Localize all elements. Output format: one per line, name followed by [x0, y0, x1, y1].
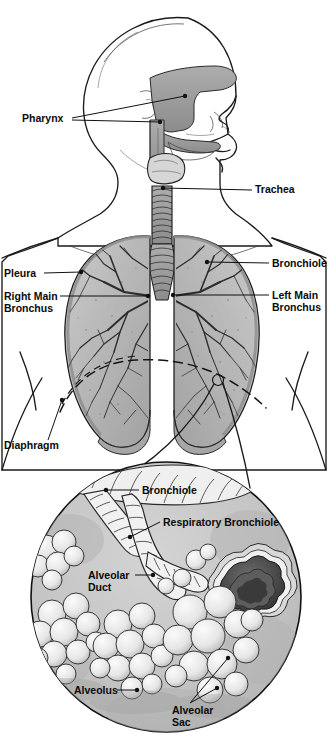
label-bronchiole-lung: Bronchiole: [272, 257, 327, 269]
label-bronchiole-inset: Bronchiole: [142, 484, 197, 496]
label-right-main-bronchus: Right Main: [4, 290, 58, 302]
callout-pleura: Pleura: [4, 267, 83, 279]
leader-dot-respiratory-bronchiole-0: [128, 535, 132, 539]
label-pleura: Pleura: [4, 267, 36, 279]
leader-dot-bronchiole-inset-0: [104, 488, 108, 492]
leader-dot-trachea-0: [161, 186, 165, 190]
label-alveolar-duct: Alveolar: [88, 569, 129, 581]
callout-trachea: Trachea: [161, 183, 295, 195]
leader-line-pharynx-0: [72, 96, 185, 118]
label-alveolar-sac-line2: Sac: [172, 716, 191, 728]
label-trachea: Trachea: [255, 183, 295, 195]
leader-line-trachea-0: [163, 188, 252, 190]
label-alveolus: Alveolus: [74, 684, 118, 696]
leader-dot-pharynx-1: [158, 120, 162, 124]
callout-respiratory-bronchiole: Respiratory Bronchiole: [128, 516, 279, 539]
label-pharynx: Pharynx: [22, 112, 64, 124]
leader-line-diaphragm-0: [48, 400, 62, 440]
label-diaphragm: Diaphragm: [4, 439, 59, 451]
leader-dot-alveolus-0: [135, 688, 139, 692]
leader-line-pharynx-1: [72, 120, 160, 122]
leader-line-bronchiole-lung-0: [207, 262, 269, 263]
callout-bronchiole-lung: Bronchiole: [205, 257, 327, 269]
leader-line-pleura-0: [44, 272, 81, 273]
callout-alveolar-duct: AlveolarDuct: [88, 569, 155, 593]
label-left-main-bronchus: Left Main: [272, 289, 318, 301]
leader-dot-pharynx-0: [183, 94, 187, 98]
leader-dot-right-main-bronchus-0: [146, 294, 150, 298]
label-left-main-bronchus-line2: Bronchus: [272, 301, 321, 313]
callout-bronchiole-inset: Bronchiole: [104, 484, 197, 496]
callout-right-main-bronchus: Right MainBronchus: [4, 290, 150, 314]
label-alveolar-sac: Alveolar: [172, 704, 213, 716]
label-respiratory-bronchiole: Respiratory Bronchiole: [163, 516, 279, 528]
leader-dot-alveolar-sac-0: [215, 686, 219, 690]
leader-dot-alveolar-sac-1: [226, 656, 230, 660]
label-right-main-bronchus-line2: Bronchus: [4, 302, 53, 314]
leader-dot-bronchiole-lung-0: [205, 260, 209, 264]
leader-line-respiratory-bronchiole-0: [130, 522, 160, 537]
label-layer: PharynxTracheaPleuraRight MainBronchusBr…: [0, 0, 328, 738]
label-alveolar-duct-line2: Duct: [88, 581, 112, 593]
leader-dot-pleura-0: [79, 270, 83, 274]
callout-left-main-bronchus: Left MainBronchus: [171, 289, 321, 313]
callout-alveolus: Alveolus: [74, 684, 139, 696]
leader-dot-left-main-bronchus-0: [171, 293, 175, 297]
leader-line-alveolar-sac-0: [190, 688, 217, 703]
callout-pharynx: Pharynx: [22, 94, 187, 124]
leader-dot-alveolar-duct-0: [151, 573, 155, 577]
leader-line-alveolar-sac-1: [190, 658, 228, 703]
diagram-canvas: PharynxTracheaPleuraRight MainBronchusBr…: [0, 0, 328, 738]
leader-dot-diaphragm-0: [60, 398, 64, 402]
callout-alveolar-sac: AlveolarSac: [172, 656, 230, 728]
callout-diaphragm: Diaphragm: [4, 398, 64, 451]
